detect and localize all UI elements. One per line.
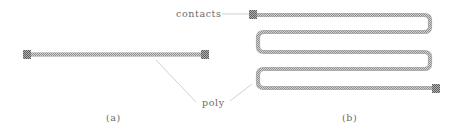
- leader-poly-a: [156, 60, 196, 102]
- poly-strip-texture: [255, 15, 434, 88]
- panel-b: [249, 10, 440, 93]
- contact-start-b: [249, 10, 257, 19]
- contacts-label: contacts: [176, 8, 221, 19]
- poly-strip-straight: [26, 53, 208, 57]
- panel-a-caption: (a): [106, 112, 121, 123]
- contact-end-b: [432, 84, 440, 93]
- poly-label: poly: [202, 97, 225, 108]
- contact-left-a: [23, 50, 31, 59]
- panel-b-caption: (b): [342, 112, 357, 123]
- panel-a: [23, 50, 209, 59]
- leader-poly-b: [230, 84, 252, 101]
- poly-resistor-diagram: contacts poly (a) (b): [0, 0, 460, 129]
- contact-right-a: [201, 50, 209, 59]
